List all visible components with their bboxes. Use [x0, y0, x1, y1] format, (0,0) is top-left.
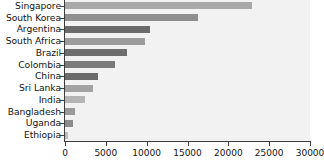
x-axis-tick-label: 30000: [296, 148, 324, 158]
x-axis-tick: [147, 142, 148, 146]
category-label: Argentina: [0, 24, 61, 34]
bar: [65, 120, 73, 127]
bar: [65, 61, 115, 68]
bar: [65, 108, 75, 115]
y-axis-line: [64, 0, 65, 142]
y-axis-tick: [60, 76, 64, 77]
plot-area: [65, 0, 310, 141]
category-label: China: [0, 71, 61, 81]
y-axis-tick: [60, 18, 64, 19]
category-label: India: [0, 95, 61, 105]
y-axis-tick: [60, 123, 64, 124]
y-axis-tick: [60, 135, 64, 136]
y-axis-tick: [60, 41, 64, 42]
category-label: Ethiopia: [0, 130, 61, 140]
category-label: Uganda: [0, 118, 61, 128]
category-label: Brazil: [0, 48, 61, 58]
x-axis-tick: [65, 142, 66, 146]
bar: [65, 49, 127, 56]
x-axis-tick: [269, 142, 270, 146]
bar: [65, 2, 252, 9]
y-axis-tick: [60, 65, 64, 66]
y-axis-tick: [60, 88, 64, 89]
category-label: Bangladesh: [0, 107, 61, 117]
y-axis-tick: [60, 53, 64, 54]
bar: [65, 14, 198, 21]
bar: [65, 85, 93, 92]
x-axis-tick-label: 15000: [173, 148, 202, 158]
x-axis-tick: [228, 142, 229, 146]
x-axis-tick-label: 0: [62, 148, 68, 158]
x-axis-tick: [188, 142, 189, 146]
bar: [65, 38, 145, 45]
x-axis-tick-label: 20000: [214, 148, 243, 158]
bar: [65, 96, 85, 103]
x-axis-tick: [310, 142, 311, 146]
y-axis-tick: [60, 112, 64, 113]
category-axis-labels: SingaporeSouth KoreaArgentinaSouth Afric…: [0, 0, 63, 141]
y-axis-tick: [60, 100, 64, 101]
y-axis-tick: [60, 29, 64, 30]
category-label: South Africa: [0, 36, 61, 46]
x-axis-tick: [106, 142, 107, 146]
x-axis-tick-label: 10000: [132, 148, 161, 158]
category-label: Colombia: [0, 60, 61, 70]
x-axis-tick-label: 25000: [255, 148, 284, 158]
bar: [65, 73, 98, 80]
y-axis-tick: [60, 6, 64, 7]
category-label: Sri Lanka: [0, 83, 61, 93]
category-label: Singapore: [0, 1, 61, 11]
x-axis-tick-label: 5000: [94, 148, 117, 158]
category-label: South Korea: [0, 13, 61, 23]
bar: [65, 132, 68, 139]
bar: [65, 26, 150, 33]
